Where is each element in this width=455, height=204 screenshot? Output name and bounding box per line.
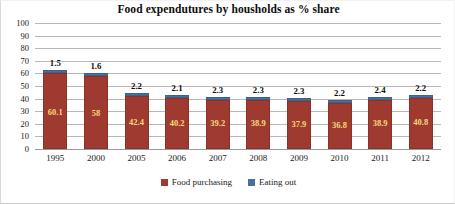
bar-group[interactable]: 40.22.1 <box>165 23 189 149</box>
x-axis-tick-label: 1995 <box>35 153 75 163</box>
y-axis-tick-label: 70 <box>21 56 30 66</box>
bar-value-label-eating-out: 2.3 <box>200 85 236 95</box>
x-axis-tick-label: 2005 <box>117 153 157 163</box>
bar-group[interactable]: 42.42.2 <box>125 23 149 149</box>
x-axis-tick-label: 2009 <box>279 153 319 163</box>
x-axis-tick-label: 2012 <box>401 153 441 163</box>
plot-area: 60.11.5581.642.42.240.22.139.22.338.92.3… <box>35 23 441 149</box>
bar-group[interactable]: 581.6 <box>84 23 108 149</box>
chart-container: Food expendutures by housholds as % shar… <box>0 0 455 204</box>
x-axis-tick-label: 2008 <box>238 153 278 163</box>
bar-group[interactable]: 38.92.3 <box>246 23 270 149</box>
bar-group[interactable]: 40.82.2 <box>409 23 433 149</box>
bar-group[interactable]: 37.92.3 <box>287 23 311 149</box>
bar-value-label-food-purchasing: 36.8 <box>324 120 356 130</box>
bar-value-label-food-purchasing: 42.4 <box>121 117 153 127</box>
chart-legend: Food purchasingEating out <box>1 177 455 187</box>
y-axis-tick-label: 60 <box>21 68 30 78</box>
x-axis-tick-label: 2006 <box>157 153 197 163</box>
bar-group[interactable]: 60.11.5 <box>43 23 67 149</box>
bar-value-label-eating-out: 1.6 <box>78 61 114 71</box>
y-axis-tick-label: 100 <box>16 18 29 28</box>
bar-value-label-eating-out: 1.5 <box>37 58 73 68</box>
legend-label: Food purchasing <box>172 177 232 187</box>
x-axis-tick-label: 2011 <box>360 153 400 163</box>
bar-value-label-food-purchasing: 40.2 <box>161 118 193 128</box>
bar-value-label-food-purchasing: 37.9 <box>283 119 315 129</box>
y-axis-tick-label: 30 <box>21 106 30 116</box>
bar-segment-eating-out[interactable] <box>368 97 392 100</box>
bar-segment-eating-out[interactable] <box>409 95 433 98</box>
bar-segment-eating-out[interactable] <box>287 98 311 101</box>
legend-swatch-icon <box>248 179 255 186</box>
bar-value-label-food-purchasing: 58 <box>80 108 112 118</box>
bar-segment-eating-out[interactable] <box>328 100 352 103</box>
bar-group[interactable]: 39.22.3 <box>206 23 230 149</box>
chart-title: Food expendutures by housholds as % shar… <box>1 3 455 15</box>
bar-value-label-food-purchasing: 39.2 <box>202 118 234 128</box>
bar-value-label-eating-out: 2.2 <box>119 81 155 91</box>
legend-swatch-icon <box>161 179 168 186</box>
x-axis-line <box>35 149 441 150</box>
x-axis-tick-label: 2007 <box>198 153 238 163</box>
bar-segment-eating-out[interactable] <box>246 97 270 100</box>
bar-value-label-eating-out: 2.4 <box>362 85 398 95</box>
y-axis-tick-label: 0 <box>25 144 29 154</box>
bar-value-label-food-purchasing: 38.9 <box>364 118 396 128</box>
bar-group[interactable]: 36.82.2 <box>328 23 352 149</box>
bar-value-label-eating-out: 2.3 <box>281 86 317 96</box>
legend-item[interactable]: Eating out <box>248 177 296 187</box>
bar-group[interactable]: 38.92.4 <box>368 23 392 149</box>
y-axis-tick-label: 20 <box>21 119 30 129</box>
y-axis-tick-label: 40 <box>21 94 30 104</box>
y-axis-tick-label: 90 <box>21 31 30 41</box>
bar-value-label-food-purchasing: 38.9 <box>242 118 274 128</box>
bar-segment-eating-out[interactable] <box>165 95 189 98</box>
bar-value-label-eating-out: 2.2 <box>322 88 358 98</box>
y-axis: 1009080706050403020100 <box>1 23 32 149</box>
bar-segment-eating-out[interactable] <box>84 73 108 76</box>
bar-value-label-food-purchasing: 60.1 <box>39 107 71 117</box>
x-axis-tick-label: 2000 <box>76 153 116 163</box>
legend-item[interactable]: Food purchasing <box>161 177 232 187</box>
legend-label: Eating out <box>259 177 296 187</box>
bar-value-label-food-purchasing: 40.8 <box>405 117 437 127</box>
bar-segment-eating-out[interactable] <box>125 93 149 96</box>
bar-segment-eating-out[interactable] <box>43 70 67 73</box>
bar-segment-eating-out[interactable] <box>206 97 230 100</box>
bar-value-label-eating-out: 2.2 <box>403 83 439 93</box>
bar-value-label-eating-out: 2.1 <box>159 83 195 93</box>
y-axis-tick-label: 50 <box>21 81 30 91</box>
y-axis-tick-label: 80 <box>21 43 30 53</box>
x-axis-tick-label: 2010 <box>320 153 360 163</box>
bar-value-label-eating-out: 2.3 <box>240 85 276 95</box>
y-axis-tick-label: 10 <box>21 131 30 141</box>
x-axis: 1995200020052006200720082009201020112012 <box>35 153 441 169</box>
